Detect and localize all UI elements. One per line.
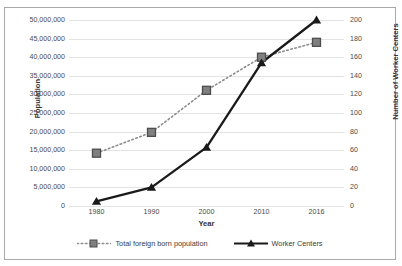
y-axis-right-tick: 200 (350, 16, 362, 24)
data-point-marker-triangle (312, 16, 321, 24)
y-axis-right-tick: 60 (350, 146, 358, 154)
y-axis-right-tick: 100 (350, 109, 362, 117)
x-axis-tick: 2016 (309, 208, 325, 216)
chart-legend: Total foreign born population Worker Cen… (5, 239, 395, 248)
gridline (69, 206, 344, 207)
data-point-marker-square (313, 38, 321, 46)
x-axis-tick: 2010 (254, 208, 270, 216)
series-line-total-foreign-born-population (97, 42, 317, 153)
data-point-marker-square (148, 128, 156, 136)
y-axis-left-tick: 45,000,000 (29, 35, 65, 43)
y-axis-right-title: Number of Worker Centers (391, 12, 400, 132)
y-axis-right-tick: 160 (350, 53, 362, 61)
y-axis-left-tick: 10,000,000 (29, 165, 65, 173)
legend-swatch-solid-triangle-icon (234, 239, 268, 248)
x-axis-tick: 2000 (199, 208, 215, 216)
data-point-marker-square (93, 149, 101, 157)
legend-item-total-foreign-born-population: Total foreign born population (77, 239, 207, 248)
legend-item-worker-centers: Worker Centers (234, 239, 323, 248)
chart-container: 05,000,00010,000,00015,000,00020,000,000… (4, 7, 396, 260)
y-axis-right-tick: 120 (350, 90, 362, 98)
legend-swatch-dotted-square-icon (77, 239, 111, 248)
x-axis-title: Year (69, 219, 344, 228)
y-axis-right-tick: 20 (350, 183, 358, 191)
y-axis-right-tick: 140 (350, 72, 362, 80)
data-point-marker-square (203, 86, 211, 94)
y-axis-right-tick: 80 (350, 128, 358, 136)
y-axis-right-tick: 0 (350, 202, 354, 210)
y-axis-left-tick: 0 (61, 202, 65, 210)
y-axis-left-title: Population (33, 59, 42, 139)
y-axis-left-tick: 5,000,000 (33, 183, 65, 191)
y-axis-right-tick: 40 (350, 165, 358, 173)
y-axis-left-tick: 50,000,000 (29, 16, 65, 24)
x-axis-tick: 1990 (144, 208, 160, 216)
y-axis-right-tick-labels: 020406080100120140160180200 (350, 20, 376, 206)
plot-area (69, 20, 344, 206)
y-axis-right-tick: 180 (350, 35, 362, 43)
x-axis-tick: 1980 (89, 208, 105, 216)
series-line-worker-centers (97, 20, 317, 201)
legend-label: Total foreign born population (115, 239, 207, 248)
y-axis-left-tick: 15,000,000 (29, 146, 65, 154)
series-layer (69, 20, 344, 206)
series-markers-total-foreign-born-population (93, 38, 321, 157)
legend-label: Worker Centers (272, 239, 323, 248)
